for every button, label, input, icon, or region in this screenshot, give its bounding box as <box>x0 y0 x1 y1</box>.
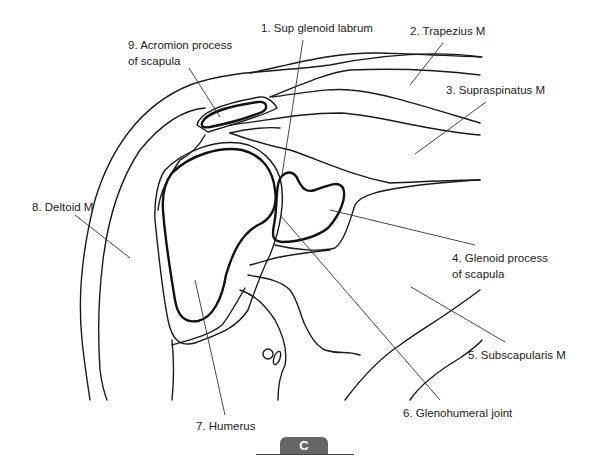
label-text: 2. Trapezius M <box>410 25 485 37</box>
leader-1 <box>282 40 303 175</box>
label-supraspinatus: 3. Supraspinatus M <box>446 82 545 98</box>
inferior-recess <box>248 275 360 355</box>
label-text: 6. Glenohumeral joint <box>403 407 512 419</box>
supraspinatus-lower-contour <box>230 113 480 135</box>
leader-6 <box>280 215 440 400</box>
panel-label-underline <box>256 454 354 455</box>
humerus-head-shape <box>163 149 276 321</box>
label-text: 9. Acromion process <box>128 37 232 53</box>
label-text: 5. Subscapularis M <box>468 349 566 361</box>
label-subscapularis: 5. Subscapularis M <box>468 347 566 363</box>
panel-label-tab: C <box>280 437 328 454</box>
label-text: of scapula <box>128 53 232 69</box>
label-glenoid-process: 4. Glenoid process of scapula <box>452 250 548 282</box>
small-node-circle <box>263 349 273 359</box>
label-text: 3. Supraspinatus M <box>446 84 545 96</box>
shoulder-anatomy-diagram <box>0 0 596 470</box>
label-humerus: 7. Humerus <box>196 418 255 434</box>
leader-5 <box>411 287 505 342</box>
label-text: 1. Sup glenoid labrum <box>261 22 373 34</box>
leader-4 <box>330 210 475 245</box>
humerus-shaft-left <box>172 340 174 400</box>
label-sup-glenoid-labrum: 1. Sup glenoid labrum <box>261 20 373 36</box>
axillary-contour <box>240 290 286 400</box>
subscapularis-upper-arc <box>345 290 480 400</box>
label-text: 7. Humerus <box>196 420 255 432</box>
label-glenohumeral-joint: 6. Glenohumeral joint <box>403 405 512 421</box>
label-text: 8. Deltoid M <box>32 201 93 213</box>
label-deltoid: 8. Deltoid M <box>32 199 93 215</box>
leader-7 <box>195 280 225 415</box>
leader-2 <box>410 43 443 85</box>
supraspinatus-wedge <box>230 128 280 133</box>
leader-8 <box>75 215 130 258</box>
label-acromion-process: 9. Acromion process of scapula <box>128 37 232 69</box>
capsule-upper <box>158 135 205 210</box>
glenoid-process-shape <box>273 173 344 242</box>
label-trapezius: 2. Trapezius M <box>410 23 485 39</box>
label-text: 4. Glenoid process <box>452 250 548 266</box>
panel-letter: C <box>299 438 308 453</box>
inferior-capsule <box>250 250 330 265</box>
label-text: of scapula <box>452 266 548 282</box>
deltoid-inner-contour <box>99 108 205 400</box>
